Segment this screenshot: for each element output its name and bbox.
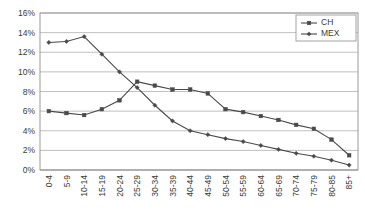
data-point-marker: [118, 99, 122, 103]
y-axis-tick-label: 14%: [18, 28, 35, 38]
x-axis-tick-label: 65-69: [274, 175, 284, 197]
data-point-marker: [329, 158, 333, 162]
data-point-marker: [171, 88, 175, 92]
y-axis-tick-label: 2%: [23, 145, 36, 155]
data-point-marker: [294, 123, 298, 127]
data-point-marker: [294, 151, 298, 155]
data-point-marker: [82, 113, 86, 117]
series-line: [49, 82, 349, 156]
data-point-marker: [259, 143, 263, 147]
data-point-marker: [188, 129, 192, 133]
data-point-marker: [276, 147, 280, 151]
data-point-marker: [206, 92, 210, 96]
x-axis-tick-label: 5-9: [62, 175, 72, 188]
data-point-marker: [224, 107, 228, 111]
data-point-marker: [223, 137, 227, 141]
data-point-marker: [206, 133, 210, 137]
x-axis-tick-label: 0-4: [44, 175, 54, 188]
data-point-marker: [277, 118, 281, 122]
series-line: [49, 37, 349, 166]
data-series-group: [47, 34, 352, 167]
data-point-marker: [312, 154, 316, 158]
data-point-marker: [241, 110, 245, 114]
y-axis-tick-label: 12%: [18, 47, 35, 57]
data-point-marker: [188, 88, 192, 92]
legend-label-mex: MEX: [321, 28, 340, 38]
x-axis-tick-label: 80-85: [327, 175, 337, 197]
data-point-marker: [47, 40, 51, 44]
data-point-marker: [241, 139, 245, 143]
data-point-marker: [47, 109, 51, 113]
x-axis-tick-label: 45-49: [203, 175, 213, 197]
x-axis-tick-label: 40-44: [185, 175, 195, 197]
x-axis-tick-label: 10-14: [79, 175, 89, 197]
y-axis-tick-label: 4%: [23, 126, 36, 136]
line-chart: 0%2%4%6%8%10%12%14%16% 0-45-910-1415-192…: [0, 0, 365, 224]
data-point-marker: [312, 127, 316, 131]
y-axis-tick-label: 0%: [23, 165, 36, 175]
data-point-marker: [153, 84, 157, 88]
legend-label-ch: CH: [321, 17, 333, 27]
y-axis-tick-label: 16%: [18, 8, 35, 18]
x-axis-tick-label: 70-74: [291, 175, 301, 197]
y-axis-tick-label: 8%: [23, 87, 36, 97]
data-point-marker: [64, 39, 68, 43]
x-axis-tick-label: 55-59: [238, 175, 248, 197]
data-point-marker: [259, 114, 263, 118]
y-axis-tick-label: 10%: [18, 67, 35, 77]
data-point-marker: [347, 153, 351, 157]
data-point-marker: [307, 21, 311, 25]
x-axis-tick-label: 20-24: [115, 175, 125, 197]
y-axis-tick-label: 6%: [23, 106, 36, 116]
data-point-marker: [135, 80, 139, 84]
x-axis-tick-label: 85+: [344, 175, 354, 189]
x-axis-tick-label: 75-79: [309, 175, 319, 197]
chart-container: 0%2%4%6%8%10%12%14%16% 0-45-910-1415-192…: [0, 0, 365, 224]
x-axis-tick-label: 30-34: [150, 175, 160, 197]
x-axis-tick-label: 60-64: [256, 175, 266, 197]
chart-legend: CHMEX: [296, 15, 356, 41]
data-point-marker: [100, 107, 104, 111]
data-point-marker: [347, 163, 351, 167]
data-point-marker: [65, 111, 69, 115]
x-axis-tick-label: 15-19: [97, 175, 107, 197]
x-axis-tick-label: 50-54: [221, 175, 231, 197]
series-mex: [47, 34, 352, 167]
x-axis-tick-label: 35-39: [168, 175, 178, 197]
data-point-marker: [330, 138, 334, 142]
x-axis-tick-label: 25-29: [132, 175, 142, 197]
y-axis-tick-labels: 0%2%4%6%8%10%12%14%16%: [18, 8, 35, 175]
x-axis-tick-labels: 0-45-910-1415-1920-2425-2930-3435-3940-4…: [44, 175, 354, 197]
